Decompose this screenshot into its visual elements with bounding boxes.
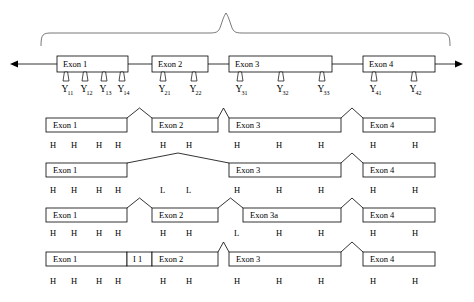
marker-subscript-42: 42 <box>416 90 422 96</box>
marker-subscript-21: 21 <box>165 90 171 96</box>
allele-letter-7: H <box>234 276 240 286</box>
transcript-2-exon2-skipped: Exon 1Exon 3Exon 4HHHHLLHHHHH <box>46 153 435 195</box>
splice-junction-2 <box>218 108 229 118</box>
allele-letter-5: H <box>160 140 166 150</box>
variant-tick-icon-31 <box>237 72 243 81</box>
splice-junction-1 <box>127 198 152 208</box>
marker-subscript-11: 11 <box>68 90 74 96</box>
allele-letter-4: H <box>115 185 121 195</box>
allele-letter-8: H <box>276 185 282 195</box>
variant-tick-icon-21 <box>160 72 166 81</box>
marker-subscript-14: 14 <box>124 90 130 96</box>
allele-letter-9: H <box>318 276 324 286</box>
top-brace <box>41 13 450 46</box>
marker-subscript-13: 13 <box>106 90 112 96</box>
exon-label-4: Exon 4 <box>370 210 395 220</box>
genomic-exon-label-1: Exon 1 <box>63 59 87 69</box>
marker-subscript-31: 31 <box>242 90 248 96</box>
exon-label-1: Exon 1 <box>53 165 77 175</box>
allele-letter-1: H <box>50 228 56 238</box>
figure-canvas: Exon 1Exon 2Exon 3Exon 4Y11Y12Y13Y14Y21Y… <box>0 0 474 302</box>
allele-letter-10: H <box>370 185 376 195</box>
marker-subscript-22: 22 <box>196 90 202 96</box>
allele-letter-4: H <box>115 140 121 150</box>
allele-letter-9: H <box>318 185 324 195</box>
allele-letter-10: H <box>370 140 376 150</box>
allele-letter-11: H <box>412 140 418 150</box>
exon-label-1: Exon 1 <box>53 120 77 130</box>
allele-letter-1: H <box>50 185 56 195</box>
genomic-row: Exon 1Exon 2Exon 3Exon 4Y11Y12Y13Y14Y21Y… <box>10 56 463 96</box>
transcript-4-intron1-retained: Exon 1I 1Exon 2Exon 3Exon 4HHHHHHHHHHH <box>46 242 435 286</box>
splice-junction-3 <box>341 198 363 208</box>
genomic-exon-label-3: Exon 3 <box>235 59 259 69</box>
splice-junction-3 <box>341 108 363 118</box>
variant-tick-icon-14 <box>119 72 125 81</box>
allele-letter-3: H <box>96 140 102 150</box>
variant-tick-icon-33 <box>319 72 325 81</box>
allele-letter-11: H <box>412 276 418 286</box>
marker-subscript-32: 32 <box>283 90 289 96</box>
left-arrowhead-icon <box>10 61 18 68</box>
exon-label-2: I 1 <box>133 254 142 264</box>
allele-letter-5: H <box>160 276 166 286</box>
allele-letter-7: L <box>234 228 239 238</box>
splice-junction-2 <box>218 198 243 208</box>
exon-label-1: Exon 1 <box>53 210 77 220</box>
allele-letter-6: H <box>186 228 192 238</box>
variant-tick-icon-22 <box>191 72 197 81</box>
allele-letter-2: H <box>71 276 77 286</box>
allele-letter-8: H <box>276 140 282 150</box>
right-arrowhead-icon <box>455 61 463 68</box>
allele-letter-6: H <box>186 140 192 150</box>
variant-tick-icon-11 <box>63 72 69 81</box>
allele-letter-9: H <box>318 140 324 150</box>
allele-letter-11: H <box>412 185 418 195</box>
marker-subscript-41: 41 <box>376 90 382 96</box>
allele-letter-8: H <box>276 228 282 238</box>
allele-letter-2: H <box>71 185 77 195</box>
splice-junction-2 <box>341 153 363 163</box>
variant-tick-icon-13 <box>101 72 107 81</box>
splicing-diagram: Exon 1Exon 2Exon 3Exon 4Y11Y12Y13Y14Y21Y… <box>0 0 474 302</box>
variant-tick-icon-42 <box>411 72 417 81</box>
allele-letter-6: L <box>186 185 191 195</box>
marker-subscript-33: 33 <box>324 90 330 96</box>
transcript-rows: Exon 1Exon 2Exon 3Exon 4HHHHHHHHHHHExon … <box>46 108 435 286</box>
splice-junction-1 <box>127 153 229 163</box>
allele-letter-2: H <box>71 228 77 238</box>
allele-letter-2: H <box>71 140 77 150</box>
variant-tick-icon-41 <box>371 72 377 81</box>
exon-label-2: Exon 2 <box>159 210 183 220</box>
exon-label-5: Exon 4 <box>370 254 395 264</box>
marker-subscript-12: 12 <box>87 90 93 96</box>
exon-label-3: Exon 2 <box>159 254 183 264</box>
transcript-1-canonical: Exon 1Exon 2Exon 3Exon 4HHHHHHHHHHH <box>46 108 435 150</box>
allele-letter-4: H <box>115 228 121 238</box>
allele-letter-6: H <box>186 276 192 286</box>
exon-label-2: Exon 2 <box>159 120 183 130</box>
allele-letter-7: H <box>234 185 240 195</box>
allele-letter-5: H <box>160 228 166 238</box>
exon-label-3: Exon 4 <box>370 165 395 175</box>
allele-letter-4: H <box>115 276 121 286</box>
allele-letter-3: H <box>96 276 102 286</box>
genomic-exon-label-4: Exon 4 <box>369 59 394 69</box>
allele-letter-7: H <box>234 140 240 150</box>
exon-label-3: Exon 3 <box>236 120 260 130</box>
allele-letter-1: H <box>50 276 56 286</box>
exon-label-2: Exon 3 <box>236 165 260 175</box>
variant-tick-icon-12 <box>82 72 88 81</box>
exon-label-4: Exon 3 <box>236 254 260 264</box>
allele-letter-11: H <box>412 228 418 238</box>
allele-letter-8: H <box>276 276 282 286</box>
allele-letter-5: L <box>160 185 165 195</box>
variant-tick-icon-32 <box>278 72 284 81</box>
exon-label-4: Exon 4 <box>370 120 395 130</box>
exon-label-3: Exon 3a <box>250 210 278 220</box>
splice-junction-1 <box>127 108 152 118</box>
allele-letter-10: H <box>370 228 376 238</box>
splice-junction-3 <box>218 242 229 252</box>
transcript-3-alt-3prime-exon3a: Exon 1Exon 2Exon 3aExon 4HHHHHHLHHHH <box>46 198 435 238</box>
allele-letter-10: H <box>370 276 376 286</box>
